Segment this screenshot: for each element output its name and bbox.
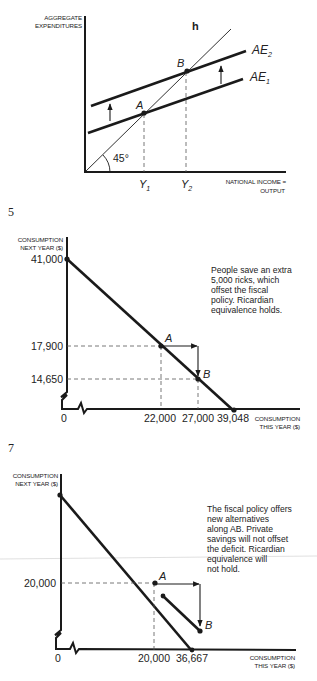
annotation-note: The fiscal policy offers new alternative… — [207, 504, 292, 574]
x-tick-27000: 27,000 — [182, 412, 214, 424]
x-tick-39048: 39,048 — [217, 412, 249, 424]
budget-line — [67, 259, 234, 411]
chart-ricardian-equivalence-holds: CONSUMPTION NEXT YEAR ($) A B 41,000 17,… — [18, 236, 300, 430]
x-axis-label-line1: CONSUMPTION — [255, 415, 300, 422]
budget-line — [60, 495, 192, 651]
y-axis-label-line2: EXPENDITURES — [35, 22, 82, 29]
point-a-label: A — [135, 99, 143, 111]
x-tick-22000: 22,000 — [144, 412, 176, 424]
y-axis-label-line1: AGGREGATE — [44, 14, 82, 21]
point-a-label: A — [164, 332, 172, 344]
note-line: The fiscal policy offers — [207, 504, 292, 514]
axes-with-breaks — [61, 237, 300, 413]
section-number-5: 5 — [8, 205, 14, 219]
y-tick-17900: 17,900 — [31, 340, 63, 352]
y-axis-label-line2: NEXT YEAR ($) — [15, 480, 58, 487]
y-axis-label-line2: NEXT YEAR ($) — [20, 244, 63, 251]
x-axis-label-line2: OUTPUT — [260, 187, 285, 194]
x-tick-36667: 36,667 — [176, 652, 208, 664]
chart-ricardian-equivalence-fails: CONSUMPTION NEXT YEAR ($) A B 20,000 0 2… — [13, 472, 296, 669]
point-a-label: A — [158, 570, 166, 582]
x-axis-label-line2: THIS YEAR ($) — [259, 423, 300, 430]
y-tick-14650: 14,650 — [31, 373, 63, 385]
annotation-note: People save an extra 5,000 ricks, which … — [211, 265, 292, 315]
x-axis-label-line1: CONSUMPTION — [250, 654, 295, 661]
x-axis-label-line1: NATIONAL INCOME = — [226, 178, 287, 185]
intercept-point — [64, 256, 69, 261]
note-line: not hold. — [207, 564, 240, 574]
x-tick-20000: 20,000 — [138, 652, 170, 664]
note-line: policy. Ricardian — [211, 295, 274, 305]
origin-label: 0 — [55, 652, 61, 664]
point-b — [197, 628, 202, 633]
chart-aggregate-expenditures: AGGREGATE EXPENDITURES h 45° AE2 AE1 A B… — [35, 14, 286, 194]
note-line: new alternatives — [207, 514, 269, 524]
ae1-line — [88, 79, 243, 133]
point-a — [158, 343, 163, 348]
y-axis-label-line1: CONSUMPTION — [13, 472, 58, 479]
origin-label: 0 — [61, 412, 67, 424]
axes — [85, 16, 286, 172]
scan-artifact-line — [0, 556, 317, 559]
ae1-label: AE1 — [249, 70, 270, 85]
point-b-label: B — [205, 619, 212, 631]
point-b — [195, 376, 200, 381]
section-number-7: 7 — [8, 441, 14, 455]
note-line: the deficit. Ricardian — [207, 544, 285, 554]
note-line: People save an extra — [211, 265, 292, 275]
note-line: equivalence will — [207, 554, 267, 564]
y-tick-20000: 20,000 — [24, 577, 56, 589]
point-b-label: B — [177, 57, 184, 69]
x-axis-label-line2: THIS YEAR ($) — [254, 662, 295, 669]
kink-point — [161, 594, 166, 599]
ae2-label: AE2 — [251, 43, 272, 58]
figure-canvas: AGGREGATE EXPENDITURES h 45° AE2 AE1 A B… — [0, 0, 317, 681]
intercept-point — [57, 492, 62, 497]
ae2-line — [91, 51, 246, 106]
note-line: along AB. Private — [207, 524, 273, 534]
note-line: savings will not offset — [207, 534, 289, 544]
point-a — [141, 110, 146, 115]
panel-letter: h — [192, 20, 199, 32]
angle-label: 45° — [113, 152, 129, 164]
angle-arc — [103, 155, 110, 172]
x-tick-y2: Y2 — [181, 178, 192, 192]
point-a — [152, 580, 157, 585]
y-tick-41000: 41,000 — [31, 253, 63, 265]
y-axis-label-line1: CONSUMPTION — [18, 236, 63, 243]
note-line: 5,000 ricks, which — [211, 275, 280, 285]
point-b — [184, 68, 189, 73]
x-tick-y1: Y1 — [139, 178, 150, 192]
point-b-label: B — [203, 368, 210, 380]
note-line: offset the fiscal — [211, 285, 268, 295]
note-line: equivalence holds. — [211, 305, 282, 315]
new-alternatives-line — [163, 596, 200, 631]
